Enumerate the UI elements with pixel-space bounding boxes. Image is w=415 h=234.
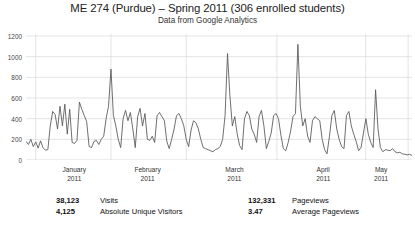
stat-value: 4,125 (56, 206, 100, 217)
x-axis-tick-label: April2011 (316, 166, 330, 183)
x-axis-year: 2011 (63, 175, 86, 184)
stat-row: 38,123Visits (56, 192, 183, 203)
y-axis-tick-label: 200 (11, 136, 22, 143)
chart-area: 020040060080010001200 (0, 28, 415, 164)
stat-value: 3.47 (248, 206, 292, 217)
y-axis-tick-label: 800 (11, 74, 22, 81)
page-subtitle: Data from Google Analytics (0, 16, 415, 25)
y-axis-tick-label: 1200 (8, 33, 22, 40)
stat-column: 38,123Visits4,125Absolute Unique Visitor… (56, 192, 183, 214)
y-axis-tick-label: 400 (11, 115, 22, 122)
slide-root: ME 274 (Purdue) – Spring 2011 (306 enrol… (0, 0, 415, 234)
x-axis-tick-label: March2011 (225, 166, 243, 183)
stat-column: 132,331Pageviews3.47Average Pageviews (248, 192, 359, 214)
y-axis-tick-label: 600 (11, 95, 22, 102)
x-axis-year: 2011 (225, 175, 243, 184)
x-axis-month: April (317, 166, 330, 173)
x-axis-month: May (375, 166, 387, 173)
stat-label: Average Pageviews (292, 206, 359, 217)
data-series-line (26, 44, 412, 155)
y-axis-tick-label: 1000 (8, 53, 22, 60)
line-chart-svg (26, 28, 412, 160)
stat-row: 3.47Average Pageviews (248, 203, 359, 214)
page-title: ME 274 (Purdue) – Spring 2011 (306 enrol… (0, 2, 415, 14)
x-axis-year: 2011 (316, 175, 330, 184)
chart-canvas (26, 28, 412, 160)
y-axis-labels: 020040060080010001200 (0, 28, 24, 160)
x-axis-month: February (134, 166, 160, 173)
x-axis-month: January (63, 166, 86, 173)
summary-statistics: 38,123Visits4,125Absolute Unique Visitor… (0, 192, 415, 222)
x-axis-year: 2011 (134, 175, 160, 184)
stat-row: 4,125Absolute Unique Visitors (56, 203, 183, 214)
x-axis-tick-label: January2011 (63, 166, 86, 183)
x-axis-tick-label: February2011 (134, 166, 160, 183)
x-axis-labels: January2011February2011March2011April201… (0, 164, 415, 188)
stat-label: Absolute Unique Visitors (100, 206, 183, 217)
x-axis-month: March (225, 166, 243, 173)
x-axis-year: 2011 (374, 175, 388, 184)
x-axis-tick-label: May2011 (374, 166, 388, 183)
y-axis-tick-label: 0 (18, 157, 22, 164)
stat-row: 132,331Pageviews (248, 192, 359, 203)
